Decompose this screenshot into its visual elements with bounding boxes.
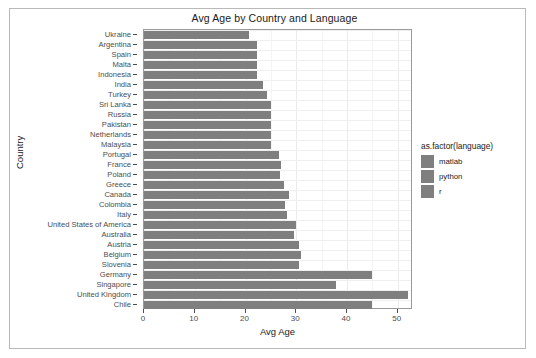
bar[interactable]	[144, 51, 257, 59]
bar-row	[144, 281, 411, 289]
y-axis-tick-mark	[133, 214, 137, 215]
bar-row	[144, 261, 411, 269]
y-axis-tick-mark	[133, 284, 137, 285]
legend-items: matlabpythonr	[421, 154, 526, 198]
bar-row	[144, 121, 411, 129]
bar-row	[144, 211, 411, 219]
bar-row	[144, 191, 411, 199]
bar[interactable]	[144, 281, 336, 289]
y-axis-tick-label: Turkey	[108, 90, 131, 99]
y-axis-tick-mark	[133, 184, 137, 185]
bar[interactable]	[144, 261, 299, 269]
bar[interactable]	[144, 221, 296, 229]
y-axis-tick-mark	[133, 144, 137, 145]
bar[interactable]	[144, 121, 271, 129]
y-axis-tick-label: Australia	[101, 230, 131, 239]
y-axis-tick-label: Indonesia	[98, 70, 131, 79]
y-axis-tick-mark	[133, 84, 137, 85]
y-axis-tick-mark	[133, 134, 137, 135]
y-axis-tick-mark	[133, 264, 137, 265]
bar[interactable]	[144, 71, 257, 79]
y-axis-title: Country	[14, 136, 25, 169]
legend-label: python	[439, 172, 462, 181]
bar[interactable]	[144, 111, 271, 119]
bar[interactable]	[144, 201, 285, 209]
y-axis-tick-label: Russia	[108, 110, 131, 119]
y-axis-tick-label: Pakistan	[102, 120, 131, 129]
bar[interactable]	[144, 211, 287, 219]
bar[interactable]	[144, 181, 284, 189]
y-axis-tick-label: Germany	[100, 270, 131, 279]
y-axis-tick-label: Italy	[117, 210, 131, 219]
bar-row	[144, 131, 411, 139]
bar[interactable]	[144, 101, 271, 109]
y-axis-tick-mark	[133, 174, 137, 175]
x-axis-tick-mark	[194, 309, 195, 313]
bar[interactable]	[144, 61, 257, 69]
y-axis: UkraineArgentinaSpainMaltaIndonesiaIndia…	[0, 29, 138, 309]
y-axis-tick-mark	[133, 104, 137, 105]
bar[interactable]	[144, 91, 267, 99]
chart-figure: Avg Age by Country and Language UkraineA…	[0, 0, 536, 358]
y-axis-tick-label: Colombia	[99, 200, 131, 209]
y-axis-tick-mark	[133, 124, 137, 125]
legend-item-r[interactable]: r	[421, 184, 526, 198]
bar[interactable]	[144, 191, 289, 199]
chart-title: Avg Age by Country and Language	[136, 12, 413, 24]
y-axis-tick-label: India	[115, 80, 131, 89]
bar-series	[144, 30, 411, 308]
y-axis-tick-mark	[133, 94, 137, 95]
bar[interactable]	[144, 171, 280, 179]
bar[interactable]	[144, 231, 294, 239]
x-axis-tick-mark	[245, 309, 246, 313]
bar[interactable]	[144, 241, 299, 249]
bar[interactable]	[144, 161, 281, 169]
bar[interactable]	[144, 31, 249, 39]
bar-row	[144, 111, 411, 119]
y-axis-tick-mark	[133, 234, 137, 235]
x-axis-tick-label: 0	[141, 314, 145, 323]
bar-row	[144, 241, 411, 249]
bar-row	[144, 171, 411, 179]
bar[interactable]	[144, 291, 408, 299]
legend-swatch-icon	[421, 170, 434, 183]
x-axis-tick-label: 30	[291, 314, 300, 323]
bar-row	[144, 161, 411, 169]
y-axis-tick-label: Argentina	[98, 40, 131, 49]
y-axis-tick-label: Belgium	[104, 250, 131, 259]
y-axis-tick-mark	[133, 304, 137, 305]
legend-item-python[interactable]: python	[421, 169, 526, 183]
legend-item-matlab[interactable]: matlab	[421, 154, 526, 168]
bar[interactable]	[144, 131, 271, 139]
bar-row	[144, 51, 411, 59]
bar[interactable]	[144, 301, 372, 309]
legend-label: r	[439, 187, 442, 196]
y-axis-tick-label: United States of America	[47, 220, 131, 229]
legend-swatch-icon	[421, 185, 434, 198]
bar[interactable]	[144, 81, 263, 89]
y-axis-tick-mark	[133, 114, 137, 115]
y-axis-tick-label: Ukraine	[105, 30, 131, 39]
x-axis-title: Avg Age	[143, 326, 412, 337]
y-axis-tick-mark	[133, 204, 137, 205]
legend: as.factor(language) matlabpythonr	[421, 141, 526, 199]
bar[interactable]	[144, 251, 301, 259]
y-axis-tick-mark	[133, 164, 137, 165]
y-axis-tick-label: Greece	[106, 180, 131, 189]
bar[interactable]	[144, 271, 372, 279]
y-axis-tick-mark	[133, 194, 137, 195]
y-axis-tick-label: Austria	[107, 240, 131, 249]
bar-row	[144, 221, 411, 229]
y-axis-tick-mark	[133, 154, 137, 155]
bar[interactable]	[144, 41, 257, 49]
y-axis-tick-label: Canada	[104, 190, 131, 199]
legend-title: as.factor(language)	[421, 141, 526, 151]
y-axis-tick-label: Singapore	[96, 280, 131, 289]
bar-row	[144, 41, 411, 49]
bar-row	[144, 291, 411, 299]
bar[interactable]	[144, 151, 279, 159]
legend-swatch-icon	[421, 155, 434, 168]
bar-row	[144, 91, 411, 99]
bar-row	[144, 81, 411, 89]
bar[interactable]	[144, 141, 271, 149]
